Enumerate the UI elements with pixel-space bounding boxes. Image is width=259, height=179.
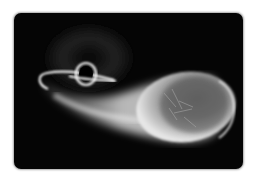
tidal-disruption-illustration [14,13,243,169]
image-frame [14,13,243,169]
haze-cloud [41,22,137,94]
